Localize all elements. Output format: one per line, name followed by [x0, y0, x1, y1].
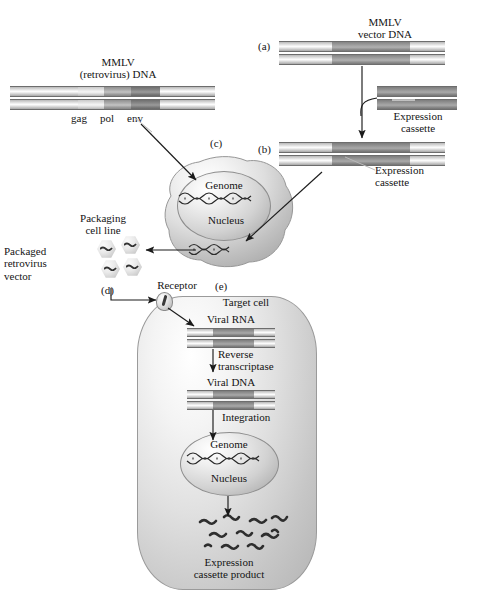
- figure-canvas: MMLV vector DNA (a) Expression cassette …: [0, 0, 479, 594]
- arrow-recombinant-to-packaging-cell: [246, 172, 322, 241]
- leader-expression-cassette-b: [345, 157, 375, 170]
- arrow-retrovirus-to-packaging-nucleus: [141, 124, 196, 180]
- arrow-virion-to-receptor: [111, 288, 156, 300]
- arrow-layer: [0, 0, 479, 594]
- leader-env: [135, 118, 152, 132]
- connector-cassette-to-vector: [361, 98, 377, 116]
- arrow-receptor-to-viral-rna: [168, 308, 194, 326]
